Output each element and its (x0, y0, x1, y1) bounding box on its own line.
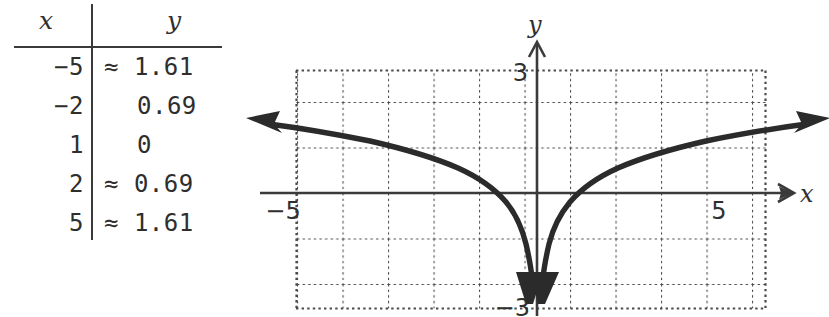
x-tick-label-5: 5 (711, 197, 726, 225)
graph-svg: x y −5 5 3 −3 (240, 0, 829, 317)
coordinate-plane: x y −5 5 3 −3 (240, 0, 829, 317)
table-cell-y: ≈ 1.61 (104, 204, 244, 242)
table-row: 5 ≈ 1.61 (0, 204, 258, 242)
x-tick-label-negative-5: −5 (265, 197, 300, 225)
table-cell-x: 2 (10, 165, 84, 203)
table-header-y: y (150, 6, 198, 36)
x-axis-label: x (800, 180, 814, 208)
table-cell-x: −2 (10, 87, 84, 125)
y-axis-label: y (527, 11, 542, 39)
table-row: −2 0.69 (0, 87, 258, 125)
table-header-x: x (22, 6, 70, 36)
table-cell-x: −5 (10, 48, 84, 86)
table-row: −5 ≈ 1.61 (0, 48, 258, 86)
table-row: 2 ≈ 0.69 (0, 165, 258, 203)
table-cell-y: ≈ 1.61 (104, 48, 244, 86)
value-table: x y −5 ≈ 1.61 −2 0.69 1 0 2 ≈ 0.69 5 ≈ 1… (0, 0, 258, 260)
curve-right-arrowhead (794, 111, 829, 133)
table-cell-x: 1 (10, 126, 84, 164)
y-tick-label-3: 3 (513, 59, 528, 87)
table-cell-x: 5 (10, 204, 84, 242)
table-cell-y: ≈ 0.69 (104, 165, 244, 203)
table-row: 1 0 (0, 126, 258, 164)
curve-left-arrowhead (246, 111, 282, 133)
logarithm-graph-figure: x y −5 ≈ 1.61 −2 0.69 1 0 2 ≈ 0.69 5 ≈ 1… (0, 0, 829, 317)
